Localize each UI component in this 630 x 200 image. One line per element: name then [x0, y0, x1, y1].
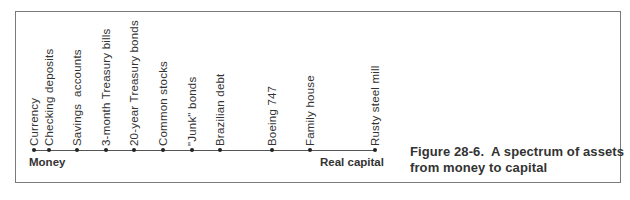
asset-label: Currency — [28, 98, 40, 146]
money-end-label: Money — [29, 156, 65, 168]
asset-tick-dot — [373, 148, 377, 152]
spectrum-axis-line — [34, 150, 375, 151]
real-capital-end-label: Real capital — [320, 156, 384, 168]
asset-tick-dot — [308, 148, 312, 152]
asset-label: "Junk" bonds — [186, 77, 198, 146]
asset-tick-dot — [47, 148, 51, 152]
asset-tick-dot — [270, 148, 274, 152]
asset-label: Brazilian debt — [214, 74, 226, 146]
asset-tick-dot — [132, 148, 136, 152]
asset-label: Savings accounts — [71, 49, 83, 146]
asset-tick-dot — [161, 148, 165, 152]
asset-label: 20-year Treasury bonds — [128, 20, 140, 146]
asset-tick-dot — [32, 148, 36, 152]
figure-caption: Figure 28-6. A spectrum of assets from m… — [410, 144, 624, 175]
asset-tick-dot — [218, 148, 222, 152]
asset-tick-dot — [104, 148, 108, 152]
asset-tick-dot — [75, 148, 79, 152]
asset-label: 3-month Treasury bills — [100, 28, 112, 146]
asset-label: Common stocks — [157, 61, 169, 146]
asset-label: Checking deposits — [43, 49, 55, 146]
asset-tick-dot — [190, 148, 194, 152]
asset-label: Family house — [304, 75, 316, 146]
asset-label: Boeing 747 — [266, 86, 278, 146]
asset-label: Rusty steel mill — [369, 65, 381, 146]
caption-line-1: Figure 28-6. A spectrum of assets — [410, 144, 624, 160]
caption-line-2: from money to capital — [410, 160, 624, 176]
